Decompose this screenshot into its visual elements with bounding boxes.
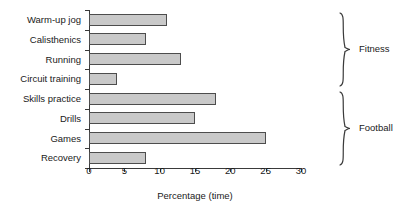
bar xyxy=(89,33,146,45)
bar-row xyxy=(89,69,301,89)
group-label: Fitness xyxy=(359,43,390,54)
bar xyxy=(89,93,216,105)
bar-row xyxy=(89,50,301,70)
x-tick-label: 15 xyxy=(180,165,210,176)
bar-row xyxy=(89,10,301,30)
category-label: Warm-up jog xyxy=(27,10,81,30)
x-tick-label: 30 xyxy=(286,165,316,176)
x-tick-label: 5 xyxy=(109,165,139,176)
x-axis-title: Percentage (time) xyxy=(89,190,301,201)
bar xyxy=(89,73,117,85)
bar xyxy=(89,14,167,26)
x-tick-label: 10 xyxy=(145,165,175,176)
bar-row xyxy=(89,30,301,50)
curly-brace-icon xyxy=(337,12,353,87)
category-label: Running xyxy=(46,50,81,70)
category-label: Circuit training xyxy=(20,69,81,89)
bar-row xyxy=(89,109,301,129)
category-axis-labels: Warm-up jogCalisthenicsRunningCircuit tr… xyxy=(0,10,85,168)
category-label: Drills xyxy=(60,109,81,129)
x-tick-label: 25 xyxy=(251,165,281,176)
x-tick-label: 20 xyxy=(215,165,245,176)
bar xyxy=(89,152,146,164)
bar xyxy=(89,132,266,144)
bar-chart: Warm-up jogCalisthenicsRunningCircuit tr… xyxy=(0,0,415,219)
category-label: Skills practice xyxy=(23,89,81,109)
group-label: Football xyxy=(359,122,393,133)
x-tick-label: 0 xyxy=(74,165,104,176)
bar xyxy=(89,53,181,65)
bar-row xyxy=(89,89,301,109)
bar xyxy=(89,112,195,124)
curly-brace-icon xyxy=(337,91,353,166)
category-label: Calisthenics xyxy=(30,30,81,50)
bar-row xyxy=(89,129,301,149)
plot-area xyxy=(89,10,301,168)
category-label: Games xyxy=(50,129,81,149)
